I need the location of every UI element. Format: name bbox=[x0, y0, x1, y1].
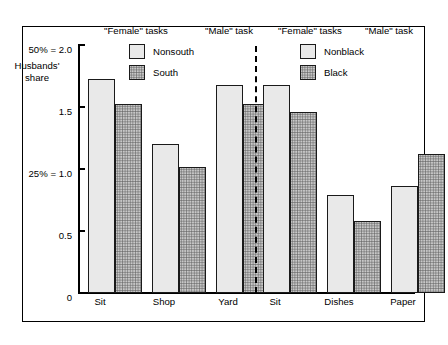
panel-divider bbox=[255, 46, 257, 293]
legend-item-nonsouth: Nonsouth bbox=[129, 43, 194, 60]
panel-header-female-race: "Female" tasks bbox=[262, 25, 358, 36]
legend-item-south: South bbox=[129, 64, 194, 81]
bar-nonblack-sit bbox=[263, 85, 290, 293]
bar-nonsouth-shop bbox=[152, 144, 179, 293]
legend-swatch-nonblack-icon bbox=[300, 44, 316, 59]
legend-swatch-nonsouth-icon bbox=[129, 44, 145, 59]
x-tick-label-sit-region: Sit bbox=[70, 296, 130, 307]
bar-nonsouth-yard bbox=[216, 85, 243, 293]
legend-swatch-south-icon bbox=[129, 65, 145, 80]
legend-swatch-black-icon bbox=[300, 65, 316, 80]
panel-header-male-race: "Male" task bbox=[352, 25, 426, 36]
y-tick-label-0-5: 0.5 bbox=[59, 231, 72, 241]
legend-race: Nonblack Black bbox=[300, 43, 364, 85]
bar-black-paper bbox=[418, 154, 445, 293]
bar-black-sit bbox=[290, 112, 317, 293]
legend-item-black: Black bbox=[300, 64, 364, 81]
y-tick-label-1-0: 25% = 1.0 bbox=[29, 169, 72, 179]
legend-item-nonblack: Nonblack bbox=[300, 43, 364, 60]
legend-label-nonblack: Nonblack bbox=[324, 46, 364, 57]
chart-container: "Female" tasks "Male" task "Female" task… bbox=[0, 0, 448, 345]
y-axis-title: Husbands' share bbox=[0, 60, 74, 83]
x-tick-label-shop: Shop bbox=[134, 296, 194, 307]
y-axis-title-line2: share bbox=[25, 72, 49, 83]
bar-south-sit bbox=[115, 104, 142, 293]
x-tick-label-dishes: Dishes bbox=[309, 296, 369, 307]
y-tick-label-2-0: 50% = 2.0 bbox=[29, 45, 72, 55]
x-tick-label-sit-race: Sit bbox=[245, 296, 305, 307]
legend-region: Nonsouth South bbox=[129, 43, 194, 85]
bar-nonblack-dishes bbox=[327, 195, 354, 293]
legend-label-south: South bbox=[153, 67, 178, 78]
panel-header-male-region: "Male" task bbox=[190, 25, 268, 36]
bar-nonsouth-sit bbox=[88, 79, 115, 293]
bar-south-shop bbox=[179, 167, 206, 293]
x-tick-label-paper: Paper bbox=[373, 296, 433, 307]
bar-nonblack-paper bbox=[391, 186, 418, 293]
legend-label-black: Black bbox=[324, 67, 347, 78]
bar-black-dishes bbox=[354, 221, 381, 293]
y-axis-title-line1: Husbands' bbox=[14, 60, 59, 71]
panel-header-female-region: "Female" tasks bbox=[88, 25, 184, 36]
y-tick-label-1-5: 1.5 bbox=[59, 107, 72, 117]
legend-label-nonsouth: Nonsouth bbox=[153, 46, 194, 57]
